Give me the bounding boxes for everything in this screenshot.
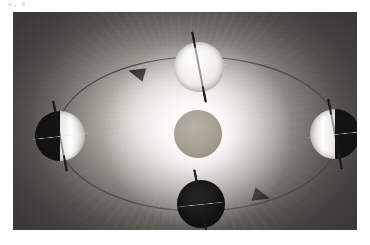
figure-canvas — [0, 0, 370, 245]
scan-speck — [22, 2, 25, 6]
diagram-photo-plate — [13, 12, 357, 230]
scan-speck — [14, 5, 16, 7]
scan-speck — [8, 3, 12, 6]
earth-positions — [13, 12, 357, 230]
